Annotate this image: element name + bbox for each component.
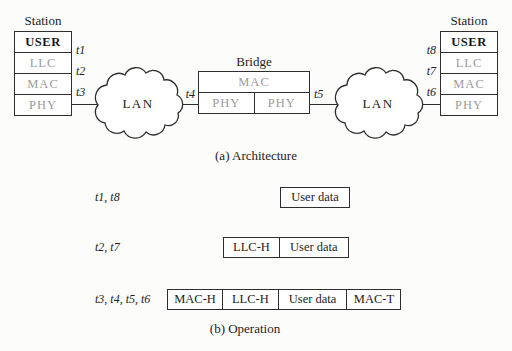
right-station-layer-llc: LLC — [441, 52, 497, 73]
time-label-t2: t2 — [76, 64, 85, 79]
op-row3-mac-t: MAC-T — [346, 289, 401, 310]
op-row3-user-data: User data — [278, 289, 348, 310]
left-station-layer-phy: PHY — [15, 94, 71, 115]
op-row2-llc-h: LLC-H — [223, 237, 280, 258]
left-station-title: Station — [14, 13, 72, 29]
op-row1-user-data: User data — [280, 187, 350, 208]
time-label-t5: t5 — [314, 87, 323, 102]
bridge-title: Bridge — [198, 54, 310, 70]
bridge-layer-phy-right: PHY — [255, 93, 310, 113]
right-station-layer-mac: MAC — [441, 73, 497, 94]
architecture-caption: (a) Architecture — [0, 148, 512, 164]
op-row2: LLC-H User data — [223, 237, 349, 258]
right-station-layer-user: USER — [441, 32, 497, 52]
time-label-t7: t7 — [408, 64, 436, 79]
bridge-architecture-diagram: LAN LAN Station USER LLC MAC PHY t1 t2 t… — [0, 0, 512, 351]
op-row3-label: t3, t4, t5, t6 — [95, 292, 150, 307]
time-label-t3: t3 — [76, 85, 85, 100]
left-station-layer-user: USER — [15, 32, 71, 52]
lan-label-left: LAN — [91, 96, 185, 112]
op-row2-label: t2, t7 — [95, 240, 120, 255]
operation-caption: (b) Operation — [95, 321, 395, 337]
op-row3: MAC-H LLC-H User data MAC-T — [167, 289, 401, 310]
bridge-layer-phy-left: PHY — [199, 93, 255, 113]
time-label-t8: t8 — [408, 43, 436, 58]
left-station-layer-mac: MAC — [15, 73, 71, 94]
op-row3-mac-h: MAC-H — [167, 289, 223, 310]
right-station-title: Station — [440, 13, 498, 29]
bridge-layer-mac: MAC — [199, 72, 309, 93]
op-row1: User data — [280, 187, 350, 208]
right-station-stack: USER LLC MAC PHY — [440, 31, 498, 116]
op-row2-user-data: User data — [279, 237, 349, 258]
left-station-stack: USER LLC MAC PHY — [14, 31, 72, 116]
left-station-layer-llc: LLC — [15, 52, 71, 73]
time-label-t6: t6 — [408, 85, 436, 100]
bridge-stack: MAC PHY PHY — [198, 71, 310, 114]
op-row3-llc-h: LLC-H — [222, 289, 279, 310]
time-label-t1: t1 — [76, 43, 85, 58]
time-label-t4: t4 — [182, 87, 195, 102]
op-row1-label: t1, t8 — [95, 190, 120, 205]
right-station-layer-phy: PHY — [441, 94, 497, 115]
